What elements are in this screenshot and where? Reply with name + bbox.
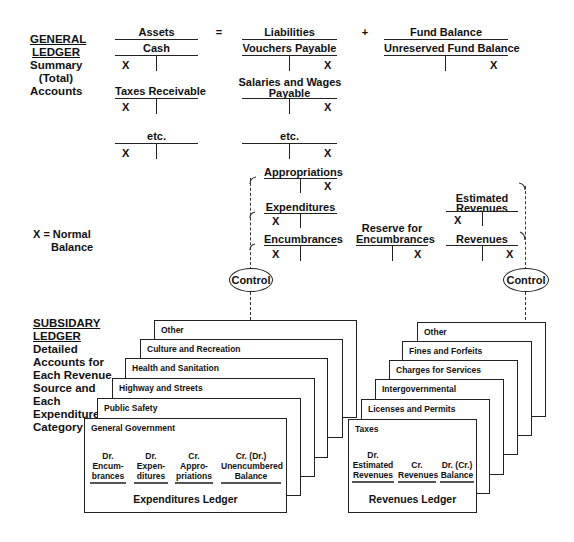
exp-card-label: Highway and Streets (119, 383, 203, 393)
expenditures-x: X (272, 215, 279, 227)
appropriations-title: Appropriations (264, 166, 337, 178)
exp-col-cr-appropriations: Cr. Appro- priations (175, 452, 213, 484)
total-label: (Total) (30, 72, 82, 85)
col-line: Unencumbered (221, 462, 281, 472)
col-line: Dr. (Cr.) (440, 461, 474, 471)
col-line: ditures (134, 472, 168, 484)
vouchers-payable-x: X (324, 59, 331, 71)
general-ledger-title-2: LEDGER (30, 46, 82, 59)
rev-card-label: Fines and Forfeits (409, 346, 482, 356)
assets-header: Assets (115, 26, 198, 38)
taxes-receivable-title: Taxes Receivable (115, 85, 198, 97)
right-control-oval: Control (503, 268, 549, 292)
rev-col-cr-revenues: Cr. Revenues (398, 451, 436, 483)
assets-etc-title: etc. (115, 130, 198, 142)
salaries-x: X (324, 101, 331, 113)
exp-card-label: Public Safety (104, 403, 157, 413)
col-line: Balance (440, 471, 474, 483)
salaries-t-stem (289, 99, 290, 114)
expenditures-t-stem (300, 214, 301, 228)
col-line: brances (90, 472, 126, 484)
col-line: Cr. (398, 461, 436, 471)
left-bracket-hooks (248, 174, 264, 254)
taxes-receivable-x: X (122, 101, 129, 113)
general-ledger-title-1: GENERAL (30, 33, 82, 46)
col-line: priations (175, 472, 213, 484)
col-line: Balance (221, 472, 281, 484)
unreserved-t-stem (445, 56, 446, 71)
assets-etc-t-stem (156, 144, 157, 159)
vouchers-payable-title: Vouchers Payable (242, 42, 337, 54)
revenues-ledger-title: Revenues Ledger (348, 493, 477, 505)
liabilities-etc-t-stem (289, 144, 290, 159)
subsidiary-desc-3: Each Revenue (33, 369, 112, 382)
rev-card-label: Charges for Services (396, 365, 481, 375)
revenues-t-stem (482, 246, 483, 261)
col-line: Revenues (398, 471, 436, 483)
col-line: Expen- (134, 462, 168, 472)
reserve-t-stem (392, 246, 393, 261)
exp-card-label: General Government (91, 423, 175, 433)
fund-balance-underline (384, 39, 508, 40)
col-line: Estimated (352, 461, 394, 471)
exp-col-dr-expenditures: Dr. Expen- ditures (134, 452, 168, 484)
summary-label: Summary (30, 59, 82, 72)
estimated-revenues-x: X (454, 214, 461, 226)
subsidiary-title-1: SUBSIDARY (33, 317, 112, 330)
exp-col-dr-encumbrances: Dr. Encum- brances (90, 452, 126, 484)
col-line: Encum- (90, 462, 126, 472)
equals-sign: = (214, 26, 224, 38)
cash-account-title: Cash (115, 42, 198, 54)
assets-etc-x: X (122, 147, 129, 159)
subsidiary-title-2: LEDGER (33, 330, 112, 343)
right-control-connector (525, 292, 526, 320)
expenditures-ledger-title: Expenditures Ledger (84, 493, 287, 505)
reserve-x: X (414, 248, 421, 260)
rev-card-label: Other (424, 327, 447, 337)
normal-balance-legend: X = Normal Balance (33, 228, 93, 254)
right-bracket-hooks (514, 180, 530, 250)
appropriations-x: X (324, 180, 331, 192)
exp-card-label: Culture and Recreation (147, 344, 241, 354)
cash-t-stem (156, 56, 157, 71)
taxes-receivable-t-stem (156, 99, 157, 114)
liabilities-etc-title: etc. (242, 130, 337, 142)
left-control-label: Control (231, 274, 270, 286)
rev-card-label: Intergovernmental (382, 384, 456, 394)
exp-col-unencumbered-balance: Cr. (Dr.) Unencumbered Balance (221, 452, 281, 484)
exp-card-label: Other (161, 325, 184, 335)
general-ledger-label: GENERAL LEDGER Summary (Total) Accounts (30, 33, 82, 98)
appropriations-t-stem (300, 179, 301, 193)
expenditures-title: Expenditures (264, 201, 337, 213)
exp-card-label: Health and Sanitation (132, 363, 219, 373)
estimated-revenues-t-stem (482, 212, 483, 226)
col-line: Appro- (175, 462, 213, 472)
rev-col-balance: Dr. (Cr.) Balance (440, 451, 474, 483)
subsidiary-desc-4: Source and (33, 382, 112, 395)
rev-col-estimated-revenues: Dr. Estimated Revenues (352, 451, 394, 483)
assets-underline (115, 39, 198, 40)
reserve-for-encumbrances-title-2: Encumbrances (356, 233, 428, 245)
revenues-title: Revenues (446, 233, 518, 245)
left-control-connector (250, 292, 251, 320)
unreserved-fund-balance-title: Unreserved Fund Balance (384, 42, 508, 54)
subsidiary-desc-1: Detailed (33, 343, 112, 356)
encumbrances-x: X (272, 248, 279, 260)
vouchers-payable-t-stem (289, 56, 290, 71)
encumbrances-t-stem (300, 246, 301, 261)
encumbrances-title: Encumbrances (264, 233, 337, 245)
accounts-label: Accounts (30, 85, 82, 98)
cash-debit-x: X (122, 59, 129, 71)
plus-sign: + (360, 26, 370, 38)
revenues-x: X (506, 248, 513, 260)
right-control-label: Control (506, 274, 545, 286)
legend-line-2: Balance (33, 241, 93, 254)
rev-card-label: Taxes (355, 424, 378, 434)
legend-line-1: X = Normal (33, 228, 93, 241)
liabilities-underline (242, 39, 337, 40)
left-control-oval: Control (229, 268, 273, 292)
rev-card-label: Licenses and Permits (368, 404, 455, 414)
fund-balance-header: Fund Balance (384, 26, 508, 38)
liabilities-header: Liabilities (242, 26, 337, 38)
unreserved-x: X (490, 59, 497, 71)
